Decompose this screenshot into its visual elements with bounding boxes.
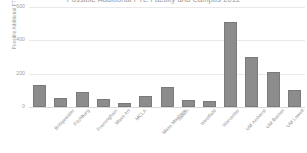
bar-um-lowell[interactable]	[267, 72, 280, 107]
x-tick-label-um-boston: UM Boston	[265, 108, 285, 129]
x-tick-label-bridgewater: Bridgewater	[53, 108, 75, 131]
x-tick-label-mcla: MCLA	[134, 108, 147, 121]
bar-um-dartmouth[interactable]	[288, 90, 301, 108]
bar-slot	[156, 7, 177, 107]
bar-mcla[interactable]	[118, 103, 131, 107]
y-tick-label-0: 0	[3, 104, 25, 109]
bar-series	[29, 7, 305, 107]
x-tick-label-um-amherst: UM Amherst	[244, 108, 266, 131]
bar-mass-art[interactable]	[97, 99, 110, 107]
x-tick-label-worcester: Worcester	[222, 108, 241, 128]
bar-salem[interactable]	[161, 87, 174, 107]
bar-fitchburg[interactable]	[54, 98, 67, 107]
y-axis-title: Possible Additional FTE Faculty	[12, 0, 17, 63]
bar-slot	[284, 7, 305, 107]
bar-um-boston[interactable]	[245, 57, 258, 107]
bar-slot	[93, 7, 114, 107]
bar-slot	[135, 7, 156, 107]
bar-slot	[178, 7, 199, 107]
bar-slot	[71, 7, 92, 107]
bar-slot	[199, 7, 220, 107]
x-tick-label-um-lowell: UM Lowell	[286, 108, 306, 128]
bar-mass-maritime[interactable]	[139, 96, 152, 107]
y-tick-label-600: 600	[3, 4, 25, 9]
bar-westfield[interactable]	[182, 100, 195, 108]
bar-slot	[220, 7, 241, 107]
bar-worcester[interactable]	[203, 101, 216, 107]
bar-slot	[29, 7, 50, 107]
bar-um-amherst[interactable]	[224, 22, 237, 107]
y-tick-label-200: 200	[3, 71, 25, 76]
bar-framingham[interactable]	[76, 92, 89, 107]
bar-chart: Possible Additional FTE Faculty and Camp…	[0, 0, 307, 153]
x-tick-label-westfield: Westfield	[200, 108, 218, 126]
chart-title: Possible Additional FTE Faculty and Camp…	[0, 0, 307, 4]
bar-slot	[263, 7, 284, 107]
x-axis-labels: BridgewaterFitchburgFraminghamMass ArtMC…	[29, 108, 305, 153]
bar-slot	[50, 7, 71, 107]
y-tick-label-400: 400	[3, 37, 25, 42]
bar-slot	[241, 7, 262, 107]
bar-bridgewater[interactable]	[33, 85, 46, 107]
plot-area: 0200400600	[29, 7, 305, 107]
x-tick-label-salem: Salem	[176, 108, 189, 122]
bar-slot	[114, 7, 135, 107]
